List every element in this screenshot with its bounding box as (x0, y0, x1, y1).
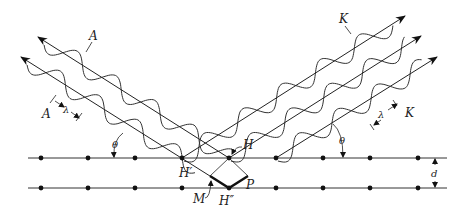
label-K: K (338, 12, 349, 26)
wavelength-arrow-right-a (374, 120, 381, 125)
angle-label-left: θ (112, 139, 118, 150)
atom (416, 156, 421, 161)
label-H: H (242, 138, 254, 152)
rays (21, 16, 437, 188)
wavelength-label-left: λ (62, 104, 69, 115)
atom (86, 156, 91, 161)
incident-wave (27, 65, 195, 173)
wave-label-K: K (338, 12, 351, 34)
label-P: P (245, 178, 255, 192)
diffracted-ray (182, 16, 405, 158)
label-H-double-prime: H″ (218, 194, 234, 208)
perpendicular-HP (229, 158, 248, 176)
wavelength-label-right: λ (377, 109, 384, 120)
angle-theta-right: θ (333, 124, 345, 157)
incident-ray (21, 57, 229, 188)
leader-M (205, 181, 211, 198)
wave-trains (27, 26, 422, 174)
atom (39, 156, 44, 161)
diffracted-wave (231, 37, 405, 162)
leader-A (86, 42, 92, 52)
wavelength-marker-right: λ K (370, 100, 415, 130)
perpendicular-HM (210, 158, 229, 176)
atom (416, 186, 421, 191)
diffracted-wave (278, 60, 422, 163)
point-H: H (232, 138, 254, 154)
leader-K (345, 26, 351, 34)
atom (180, 156, 185, 161)
wave-label-A: A (86, 29, 98, 52)
wave-label-K-lower: K (404, 106, 415, 120)
plane-spacing-marker: d (431, 159, 437, 187)
spacing-label-d: d (431, 168, 437, 179)
incident-ray (38, 37, 229, 158)
atom (368, 156, 373, 161)
atom (39, 186, 44, 191)
atom (180, 186, 185, 191)
angle-label-right: θ (339, 135, 345, 146)
wavelength-arrow-left-b (71, 112, 79, 118)
label-H-prime: H′ (178, 166, 192, 180)
atom (274, 186, 279, 191)
diagram-canvas: θ θ λ A λ K A (0, 0, 467, 212)
diffracted-wave (184, 26, 393, 162)
bragg-diagram: θ θ λ A λ K A (0, 0, 467, 212)
label-M: M (192, 192, 206, 206)
wavelength-arrow-right-b (388, 104, 397, 110)
wavelength-tick-right-a (370, 124, 374, 130)
label-A: A (88, 29, 98, 43)
atom (133, 186, 138, 191)
path-difference (210, 158, 248, 188)
wavelength-marker-left: λ A (41, 95, 82, 121)
wavelength-tick-left-a (50, 95, 56, 103)
atom (133, 156, 138, 161)
atom (321, 156, 326, 161)
wave-label-A-lower: A (41, 107, 51, 121)
diffracted-ray (229, 36, 421, 158)
atom (368, 186, 373, 191)
atom (321, 186, 326, 191)
wavelength-tick-left-b (76, 113, 82, 121)
atom (86, 186, 91, 191)
atoms (39, 156, 421, 191)
angle-theta-left: θ (112, 133, 123, 157)
atom (274, 156, 279, 161)
point-M: M (192, 181, 211, 206)
